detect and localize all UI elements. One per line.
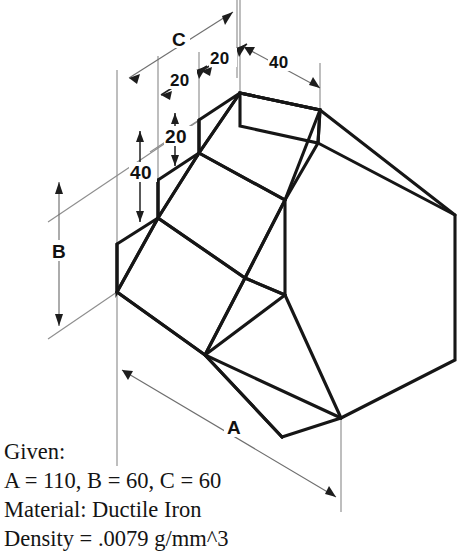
dimension-20-top-left: 20 [161, 66, 207, 100]
dimension-40-top-right: 40 [244, 47, 320, 88]
arrow-20-vertical-top [171, 113, 179, 124]
technical-drawing-canvas: C 20 20 40 [0, 0, 467, 557]
arrow-40-vertical-top [136, 131, 144, 142]
arrow-C-right [222, 12, 233, 25]
arrow-20-top-right-b [236, 44, 247, 57]
arrow-20-vertical-bottom [171, 155, 179, 166]
dimension-20-vertical: 20 [164, 113, 192, 166]
given-material-line: Material: Ductile Iron [4, 495, 334, 524]
arrow-C-left [129, 74, 140, 84]
dimension-label-40-vertical: 40 [130, 162, 152, 183]
arrow-40-top-right-b [309, 77, 320, 88]
arrow-40-vertical-bottom [136, 211, 144, 222]
arrow-B-bottom [55, 314, 63, 326]
dimension-label-B: B [52, 241, 66, 262]
dimension-label-40-top-right: 40 [269, 53, 289, 72]
dimension-40-vertical: 40 [129, 131, 157, 222]
dimension-B: B [49, 182, 70, 326]
dimension-label-20-top-right: 20 [210, 49, 230, 68]
bottom-apex-edge [282, 418, 341, 437]
dimension-label-20-vertical: 20 [165, 126, 187, 147]
dimension-label-C: C [172, 29, 186, 50]
given-heading: Given: [4, 437, 334, 466]
dimension-label-A: A [227, 417, 241, 438]
given-notes-block: Given: A = 110, B = 60, C = 60 Material:… [4, 437, 334, 553]
given-values-line: A = 110, B = 60, C = 60 [4, 466, 334, 495]
dimension-label-20-top-left: 20 [170, 71, 190, 90]
arrow-B-top [55, 182, 63, 194]
given-density-line: Density = .0079 g/mm^3 [4, 524, 334, 553]
